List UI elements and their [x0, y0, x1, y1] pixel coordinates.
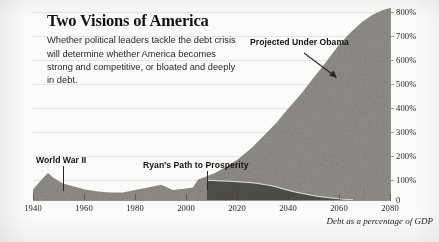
x-axis-label-2080: 2080: [381, 203, 399, 213]
y-tick-100: [391, 180, 394, 181]
y-tick-800: [391, 12, 394, 13]
x-axis-label-1940: 1940: [24, 203, 42, 213]
headline-block: Two Visions of America Whether political…: [47, 12, 257, 87]
y-tick-700: [391, 36, 394, 37]
y-tick-300: [391, 132, 394, 133]
x-axis-label-2020: 2020: [228, 203, 246, 213]
y-axis-label-300: 300%: [396, 127, 416, 137]
x-tick-2020: [237, 194, 238, 200]
y-axis-label-800: 800%: [396, 7, 416, 17]
x-axis-label-2040: 2040: [279, 203, 297, 213]
y-tick-400: [391, 108, 394, 109]
x-axis-line: [33, 200, 391, 201]
x-tick-2000: [186, 194, 187, 200]
x-tick-2040: [288, 194, 289, 200]
y-tick-500: [391, 84, 394, 85]
chart-deck: Whether political leaders tackle the deb…: [47, 34, 243, 87]
x-tick-1940: [33, 194, 34, 200]
annotation-projected-under-obama: Projected Under Obama: [250, 37, 349, 47]
y-tick-600: [391, 60, 394, 61]
y-axis-label-600: 600%: [396, 55, 416, 65]
x-tick-1980: [135, 194, 136, 200]
y-tick-200: [391, 156, 394, 157]
x-tick-2080: [390, 194, 391, 200]
x-tick-2060: [339, 194, 340, 200]
annotation-arrow-projected-under-obama: [303, 52, 345, 84]
x-tick-1960: [84, 194, 85, 200]
x-axis-label-1960: 1960: [75, 203, 93, 213]
y-axis-label-100: 100%: [396, 175, 416, 185]
axis-caption: Debt as a percentage of GDP: [327, 216, 433, 226]
y-axis-label-200: 200%: [396, 151, 416, 161]
annotation-leader-world-war-ii: [63, 166, 64, 191]
x-axis-label-2000: 2000: [177, 203, 195, 213]
x-axis-label-1980: 1980: [126, 203, 144, 213]
x-axis-label-2060: 2060: [330, 203, 348, 213]
annotation-world-war-ii: World War II: [36, 155, 86, 165]
chart-title: Two Visions of America: [47, 12, 257, 29]
y-axis-label-500: 500%: [396, 79, 416, 89]
y-axis-label-700: 700%: [396, 31, 416, 41]
annotation-leader-ryans-path: [207, 171, 208, 190]
y-axis-label-400: 400%: [396, 103, 416, 113]
infographic-page: 800% 700% 600% 500% 400% 300% 200% 100% …: [0, 0, 439, 242]
annotation-ryans-path: Ryan's Path to Prosperity: [143, 160, 249, 170]
